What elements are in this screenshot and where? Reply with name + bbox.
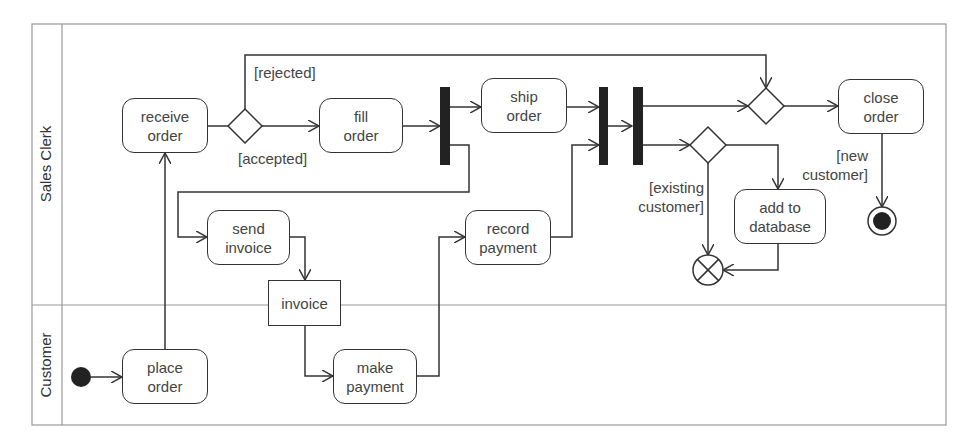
flow-record-to-join <box>551 145 599 237</box>
flow-final-node <box>693 255 723 285</box>
guard-rejected: [rejected] <box>254 63 316 82</box>
flow-send-to-invoice <box>290 237 305 280</box>
action-close-order[interactable]: close order <box>838 79 924 134</box>
action-receive-order[interactable]: receive order <box>122 98 208 153</box>
decision-node-order <box>228 109 262 143</box>
action-make-payment[interactable]: make payment <box>333 349 417 404</box>
fork-bar <box>440 87 450 165</box>
flow-make-to-record <box>417 237 465 376</box>
action-record-payment[interactable]: record payment <box>465 210 551 265</box>
guard-accepted: [accepted] <box>238 149 307 168</box>
action-place-order[interactable]: place order <box>122 349 208 404</box>
guard-existing-customer: [existing customer] <box>620 178 704 216</box>
fork-bar-2 <box>633 87 643 165</box>
swimlane-label-sales-clerk: Sales Clerk <box>37 114 57 214</box>
flow-add-to-final <box>723 244 778 270</box>
guard-new-customer: [new customer] <box>790 146 868 184</box>
flow-invoice-to-make-payment <box>305 326 333 376</box>
flow-new-customer <box>726 145 778 189</box>
action-ship-order[interactable]: ship order <box>481 78 567 133</box>
join-bar <box>599 87 608 165</box>
merge-node <box>748 88 784 124</box>
object-invoice[interactable]: invoice <box>268 280 341 326</box>
initial-node <box>71 367 91 387</box>
action-add-to-database[interactable]: add to database <box>734 189 826 244</box>
decision-node-customer <box>690 127 726 163</box>
swimlane-label-customer: Customer <box>37 315 57 415</box>
activity-final-node <box>868 207 896 235</box>
action-send-invoice[interactable]: send invoice <box>207 210 290 265</box>
action-fill-order[interactable]: fill order <box>319 98 403 153</box>
